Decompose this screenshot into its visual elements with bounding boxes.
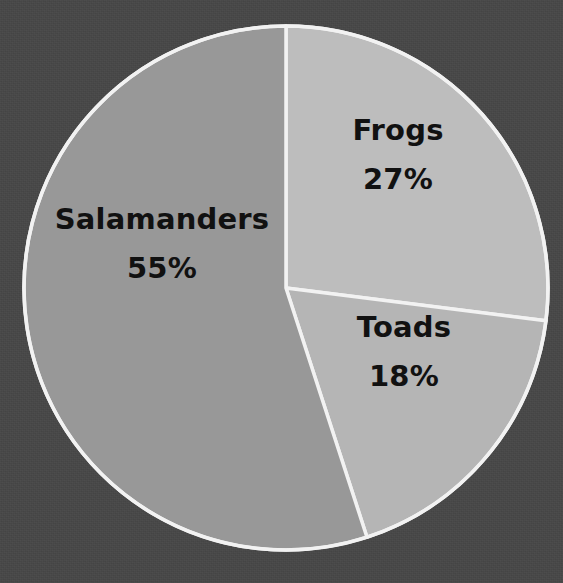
pie-chart-figure: Frogs 27% Toads 18% Salamanders 55% [0,0,563,583]
slice-value-toads: 18% [357,362,451,391]
slice-name-toads: Toads [357,313,451,342]
slice-name-frogs: Frogs [352,116,443,145]
pie-slice-label-salamanders: Salamanders 55% [55,205,270,283]
slice-value-salamanders: 55% [55,254,270,283]
pie-slice-label-frogs: Frogs 27% [352,116,443,194]
pie-slice-label-toads: Toads 18% [357,313,451,391]
pie-chart-svg [0,0,563,583]
pie-slice-group [24,26,548,550]
slice-value-frogs: 27% [352,165,443,194]
slice-name-salamanders: Salamanders [55,205,270,234]
